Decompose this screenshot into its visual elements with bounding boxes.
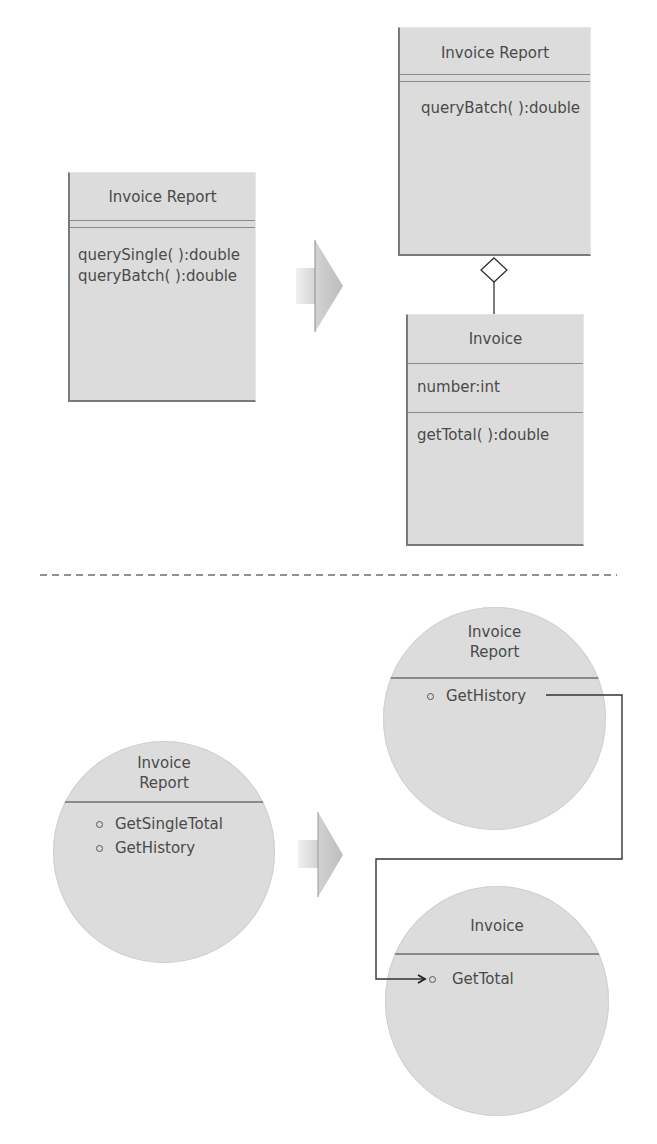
- operation: queryBatch( ):double: [421, 99, 580, 117]
- component-invoice-report-before: Invoice Report GetSingleTotal GetHistory: [53, 741, 275, 963]
- class-divider: [408, 412, 583, 413]
- aggregation-diamond-icon: [481, 258, 507, 314]
- class-box-invoice: Invoice number:int getTotal( ):double: [406, 314, 584, 546]
- component-divider: [383, 677, 606, 679]
- component-name: Invoice: [385, 916, 609, 936]
- class-name: Invoice: [408, 330, 583, 348]
- operation: getTotal( ):double: [417, 426, 549, 444]
- operation: querySingle( ):double: [78, 246, 240, 264]
- component-invoice: Invoice GetTotal: [385, 886, 609, 1116]
- interface-lollipop-icon: [429, 976, 436, 983]
- interface-label: GetHistory: [446, 687, 526, 705]
- component-invoice-report-after: Invoice Report GetHistory: [383, 607, 606, 830]
- class-divider: [70, 227, 255, 228]
- class-divider: [400, 81, 590, 82]
- class-divider: [70, 220, 255, 221]
- interface-label: GetTotal: [452, 970, 514, 988]
- class-box-invoice-report-after: Invoice Report queryBatch( ):double: [398, 27, 591, 256]
- attribute: number:int: [417, 378, 500, 396]
- interface-item: GetTotal: [429, 970, 514, 988]
- component-name-line1: Invoice: [468, 623, 522, 641]
- component-name-line2: Report: [470, 643, 520, 661]
- component-divider: [385, 953, 609, 955]
- interface-lollipop-icon: [427, 693, 434, 700]
- interface-lollipop-icon: [96, 845, 103, 852]
- transform-arrow-icon-top: [296, 240, 343, 332]
- component-name-line1: Invoice: [137, 754, 191, 772]
- component-name: Invoice Report: [53, 753, 275, 793]
- class-name: Invoice Report: [70, 188, 255, 206]
- component-divider: [53, 801, 275, 803]
- class-box-invoice-report-before: Invoice Report querySingle( ):double que…: [68, 172, 256, 402]
- interface-label: GetSingleTotal: [115, 815, 223, 833]
- class-divider: [408, 363, 583, 364]
- component-name-line2: Report: [139, 774, 189, 792]
- class-divider: [400, 74, 590, 75]
- operation: queryBatch( ):double: [78, 267, 237, 285]
- interface-item: GetHistory: [96, 839, 195, 857]
- interface-item: GetHistory: [427, 687, 526, 705]
- component-name: Invoice Report: [383, 622, 606, 662]
- class-name: Invoice Report: [400, 44, 590, 62]
- transform-arrow-icon-bottom: [298, 812, 343, 897]
- interface-item: GetSingleTotal: [96, 815, 223, 833]
- interface-label: GetHistory: [115, 839, 195, 857]
- interface-lollipop-icon: [96, 821, 103, 828]
